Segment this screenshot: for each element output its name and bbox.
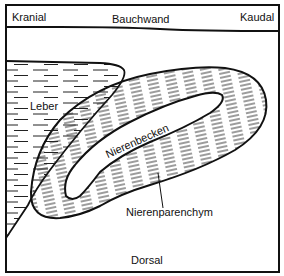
abdominal-wall-line [6,27,279,31]
label-kranial: Kranial [12,12,46,23]
label-leber: Leber [28,101,60,112]
label-nierenparenchym: Nierenparenchym [126,207,213,218]
kidney-ultrasound-diagram: Kranial Bauchwand Kaudal Leber Nierenbec… [0,0,284,276]
label-kaudal: Kaudal [240,12,274,23]
label-bauchwand: Bauchwand [112,14,170,25]
label-dorsal: Dorsal [131,255,163,266]
